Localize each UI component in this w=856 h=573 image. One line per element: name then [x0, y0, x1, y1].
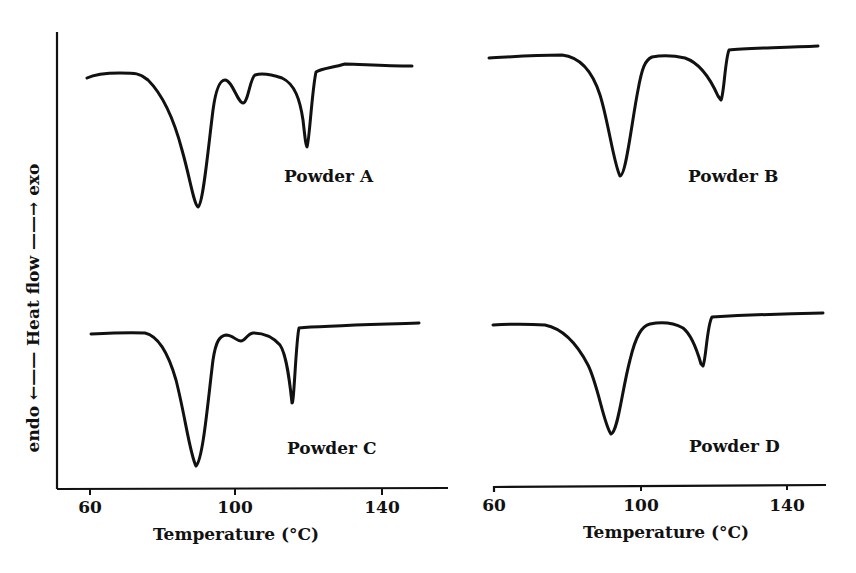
y-axis-label: endo ←—— Heat flow ——→ exo	[23, 164, 43, 453]
right-tick-140: 140	[769, 495, 805, 515]
left-tick-100: 100	[217, 497, 253, 517]
curve-powder-b	[489, 46, 818, 176]
left-x-axis-label: Temperature (°C)	[153, 524, 319, 544]
label-powder-b: Powder B	[688, 166, 778, 186]
right-x-axis-label: Temperature (°C)	[583, 522, 749, 542]
left-x-axis	[57, 488, 448, 489]
curve-powder-d	[493, 313, 823, 434]
right-tick-60: 60	[482, 495, 506, 515]
label-powder-a: Powder A	[284, 166, 373, 186]
right-x-axis	[494, 485, 826, 492]
dsc-figure	[0, 0, 856, 573]
left-tick-140: 140	[364, 497, 400, 517]
left-tick-60: 60	[78, 497, 102, 517]
label-powder-c: Powder C	[287, 438, 376, 458]
right-tick-100: 100	[623, 495, 659, 515]
label-powder-d: Powder D	[689, 436, 780, 456]
